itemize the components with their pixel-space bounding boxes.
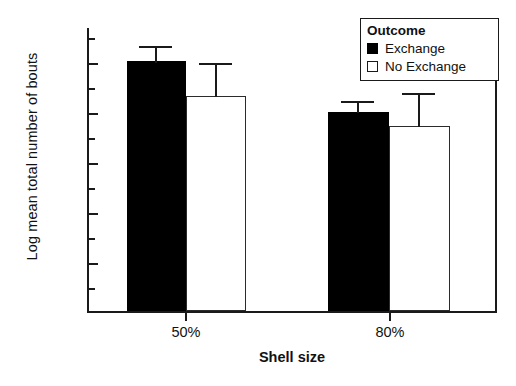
y-tick-major — [89, 263, 98, 265]
error-bar-stem-no-exchange-50 — [215, 63, 217, 97]
y-axis-line — [87, 28, 89, 313]
y-tick-minor — [89, 288, 95, 290]
y-tick-minor — [89, 188, 95, 190]
bar-exchange-80 — [328, 112, 389, 311]
x-tick-label-80: 80% — [350, 324, 430, 340]
bar-no-exchange-80 — [389, 126, 450, 311]
y-tick-minor — [89, 138, 95, 140]
x-tick-50 — [185, 313, 187, 321]
legend-item-no-exchange: No Exchange — [367, 58, 492, 75]
legend-item-exchange: Exchange — [367, 40, 492, 57]
open-square-icon — [367, 61, 378, 72]
y-tick-major — [89, 311, 98, 313]
y-tick-minor — [89, 38, 95, 40]
legend-box: Outcome Exchange No Exchange — [360, 18, 499, 81]
legend-item-label: Exchange — [385, 40, 445, 57]
y-axis-title: Log mean total number of bouts — [21, 0, 43, 313]
bar-exchange-50 — [127, 61, 186, 311]
error-bar-cap-exchange-80 — [341, 101, 374, 103]
y-tick-major — [89, 163, 98, 165]
y-tick-major — [89, 63, 98, 65]
bar-chart-figure: Log mean total number of bouts 1.0 0.8 0… — [0, 0, 516, 386]
error-bar-cap-no-exchange-80 — [402, 93, 435, 95]
error-bar-cap-no-exchange-50 — [199, 63, 232, 65]
x-tick-label-50: 50% — [146, 324, 226, 340]
x-axis-title: Shell size — [87, 349, 497, 365]
x-axis-line — [87, 311, 497, 313]
bar-no-exchange-50 — [186, 96, 246, 311]
error-bar-stem-exchange-50 — [155, 46, 157, 63]
legend-item-label: No Exchange — [385, 58, 466, 75]
y-tick-major — [89, 213, 98, 215]
error-bar-cap-exchange-50 — [139, 46, 172, 48]
legend-title: Outcome — [367, 22, 492, 39]
y-tick-minor — [89, 238, 95, 240]
y-tick-major — [89, 113, 98, 115]
filled-square-icon — [367, 43, 378, 54]
x-tick-80 — [389, 313, 391, 321]
y-tick-minor — [89, 88, 95, 90]
error-bar-stem-no-exchange-80 — [418, 93, 420, 127]
